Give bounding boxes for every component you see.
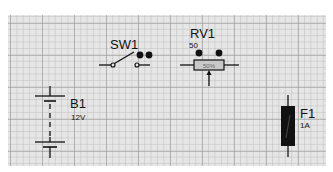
pot-decrease-dot-icon[interactable] bbox=[196, 50, 203, 57]
battery-value-label: 12V bbox=[71, 113, 86, 122]
switch-sw1[interactable]: SW1 bbox=[99, 37, 152, 67]
fuse-ref-label: F1 bbox=[300, 106, 315, 121]
potentiometer-rv1[interactable]: 50% RV1 50 bbox=[180, 26, 239, 86]
switch-ref-label: SW1 bbox=[110, 37, 138, 52]
wiper-arrow-icon bbox=[207, 70, 212, 75]
pot-increase-dot-icon[interactable] bbox=[216, 50, 223, 57]
switch-toggle-dot-icon[interactable] bbox=[146, 52, 153, 59]
fuse-value-label: 1A bbox=[300, 121, 310, 130]
pot-value-label: 50 bbox=[189, 41, 198, 50]
pot-ref-label: RV1 bbox=[190, 26, 215, 41]
schematic-drawing: SW1 50% RV1 50 B1 12V F1 1A bbox=[0, 0, 333, 172]
battery-b1[interactable]: B1 12V bbox=[35, 86, 86, 158]
fuse-f1[interactable]: F1 1A bbox=[281, 95, 315, 157]
pot-wiper-position: 50% bbox=[203, 63, 216, 69]
battery-ref-label: B1 bbox=[70, 96, 86, 111]
switch-toggle-dot-icon[interactable] bbox=[137, 52, 144, 59]
